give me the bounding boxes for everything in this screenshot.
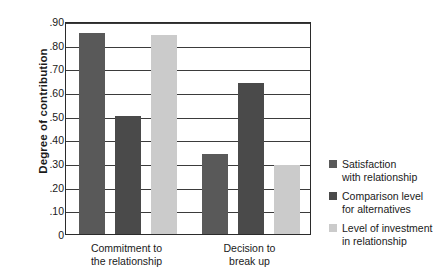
x-group-label-line: break up — [188, 255, 311, 268]
x-group-label-line: the relationship — [65, 255, 188, 268]
legend-entry: Satisfaction with relationship — [329, 158, 445, 183]
gridline — [66, 23, 310, 24]
y-tick-label: .10 — [28, 206, 64, 217]
bar — [79, 33, 105, 234]
legend-swatch-icon — [329, 192, 337, 200]
x-group-label: Decision tobreak up — [188, 242, 311, 267]
bar — [151, 35, 177, 234]
y-tick-label: .40 — [28, 135, 64, 146]
legend: Satisfaction with relationshipComparison… — [329, 158, 445, 254]
x-group-label: Commitment tothe relationship — [65, 242, 188, 267]
y-tick-label: .60 — [28, 88, 64, 99]
legend-label: Satisfaction with relationship — [342, 158, 417, 183]
y-tick-label: 0 — [28, 230, 64, 241]
bar-chart-figure: Degree of contribution .90.80.70.60.50.4… — [0, 0, 447, 276]
bar — [115, 116, 141, 234]
legend-label: Comparison level for alternatives — [342, 190, 423, 215]
x-group-label-line: Decision to — [188, 242, 311, 255]
y-tick-label: .80 — [28, 41, 64, 52]
bar — [202, 154, 228, 234]
y-tick-label: .90 — [28, 17, 64, 28]
plot-area — [65, 22, 311, 235]
x-group-label-line: Commitment to — [65, 242, 188, 255]
y-tick-label: .20 — [28, 183, 64, 194]
legend-label: Level of investment in relationship — [342, 222, 432, 247]
legend-swatch-icon — [329, 224, 337, 232]
y-tick-label: .50 — [28, 112, 64, 123]
y-tick-label: .70 — [28, 64, 64, 75]
legend-entry: Level of investment in relationship — [329, 222, 445, 247]
bar — [238, 83, 264, 234]
legend-entry: Comparison level for alternatives — [329, 190, 445, 215]
legend-swatch-icon — [329, 160, 337, 168]
bar — [274, 165, 300, 234]
y-tick-label: .30 — [28, 159, 64, 170]
